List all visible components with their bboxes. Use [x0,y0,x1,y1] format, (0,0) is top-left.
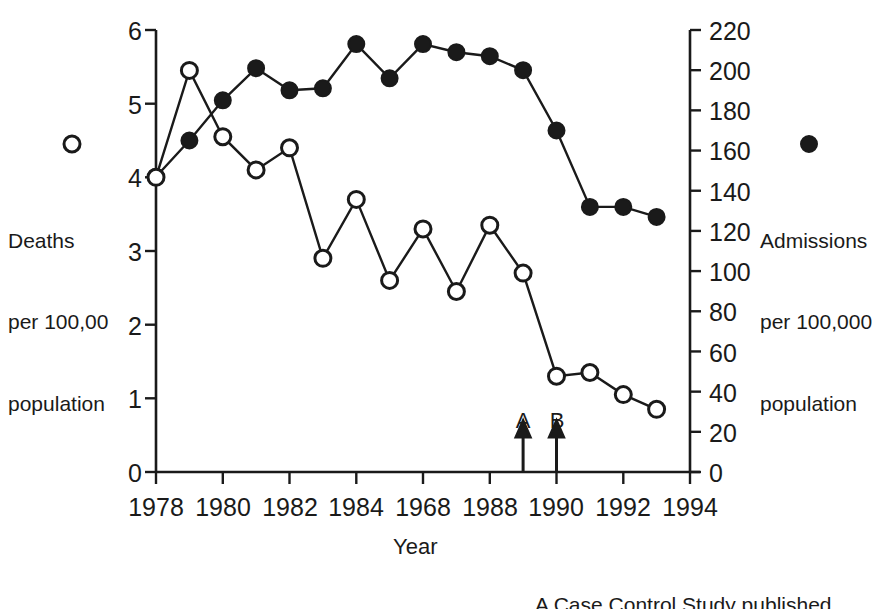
right-ytick-0: 0 [709,458,723,489]
right-ytick-220: 220 [709,16,751,47]
left-ytick-4: 4 [110,163,142,194]
deaths-data-points [148,62,665,417]
right-legend-line-3: population [760,390,872,417]
x-axis-ticks [156,472,690,484]
right-ytick-160: 160 [709,136,751,167]
right-legend-line-2: per 100,000 [760,308,872,335]
right-ytick-180: 180 [709,96,751,127]
annotation-note-a: A Case Control Study published [535,591,832,609]
left-legend-line-2: per 100,00 [8,308,108,335]
right-ytick-120: 120 [709,217,751,248]
right-legend-line-1: Admissions [760,227,872,254]
right-ytick-60: 60 [709,338,737,369]
left-legend-line-3: population [8,390,108,417]
xtick-1994: 1994 [640,492,740,523]
left-ytick-2: 2 [110,311,142,342]
right-ytick-80: 80 [709,297,737,328]
left-ytick-3: 3 [110,237,142,268]
annotation-notes: A Case Control Study published B Fenoter… [535,534,832,609]
left-axis-legend: Deaths per 100,00 population [8,172,108,472]
annotation-letter-b: B [537,408,577,435]
left-ytick-5: 5 [110,90,142,121]
right-ytick-20: 20 [709,418,737,449]
admissions-series-line [156,44,657,217]
left-ytick-6: 6 [110,16,142,47]
left-axis-ticks [145,30,156,472]
right-ytick-100: 100 [709,257,751,288]
left-legend-line-1: Deaths [8,227,108,254]
filled-circle-marker-icon [797,132,821,156]
left-ytick-1: 1 [110,384,142,415]
right-ytick-40: 40 [709,378,737,409]
right-ytick-140: 140 [709,177,751,208]
left-ytick-0: 0 [110,458,142,489]
open-circle-marker-icon [60,132,84,156]
right-ytick-200: 200 [709,56,751,87]
right-axis-legend: Admissions per 100,000 population [760,172,872,472]
chart-figure: 0 1 2 3 4 5 6 0 20 40 60 80 100 120 140 … [0,0,887,609]
deaths-series-line [156,70,657,409]
x-axis-title: Year [393,534,437,561]
right-axis-ticks [690,30,701,472]
